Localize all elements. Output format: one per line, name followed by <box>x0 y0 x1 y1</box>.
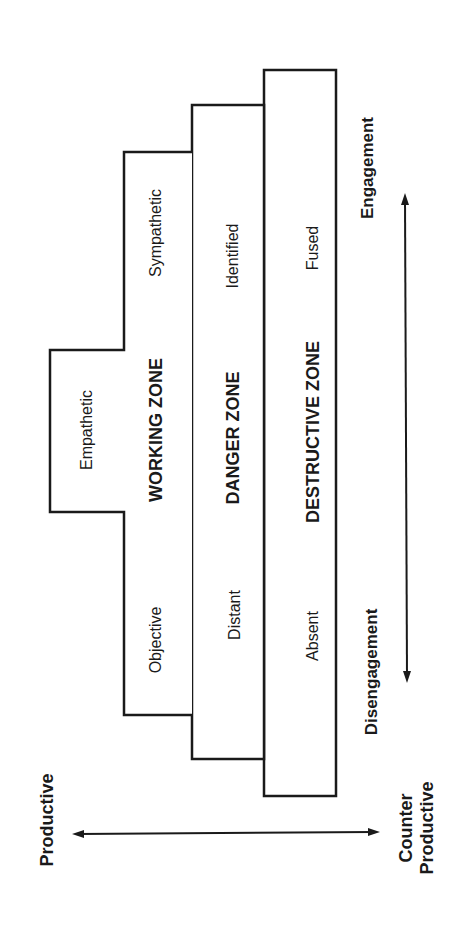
arrowhead-left-icon <box>72 830 84 838</box>
axis-label-productive: Productive <box>37 773 58 866</box>
arrowhead-right-icon <box>368 828 380 836</box>
counter-line: Counter <box>396 781 417 874</box>
engagement-arrow <box>401 193 411 683</box>
label-identified: Identified <box>224 224 242 289</box>
label-absent: Absent <box>304 611 322 661</box>
working-zone-title: WORKING ZONE <box>146 358 167 502</box>
label-sympathetic: Sympathetic <box>147 189 165 277</box>
arrowhead-down-icon <box>403 671 411 683</box>
destructive-zone-title: DESTRUCTIVE ZONE <box>303 341 324 523</box>
label-distant: Distant <box>226 590 244 640</box>
axis-label-disengagement: Disengagement <box>362 609 382 736</box>
working-zone-box <box>50 152 192 715</box>
productivity-arrow <box>72 828 380 838</box>
destructive-zone-box <box>264 70 336 796</box>
label-empathetic: Empathetic <box>78 390 96 470</box>
axis-label-engagement: Engagement <box>358 117 378 219</box>
arrowhead-up-icon <box>401 193 409 205</box>
productive-line: Productive <box>417 781 438 874</box>
axis-label-counter-productive: Counter Productive <box>396 781 438 874</box>
label-fused: Fused <box>304 226 322 270</box>
label-objective: Objective <box>147 607 165 674</box>
danger-zone-title: DANGER ZONE <box>223 371 244 504</box>
